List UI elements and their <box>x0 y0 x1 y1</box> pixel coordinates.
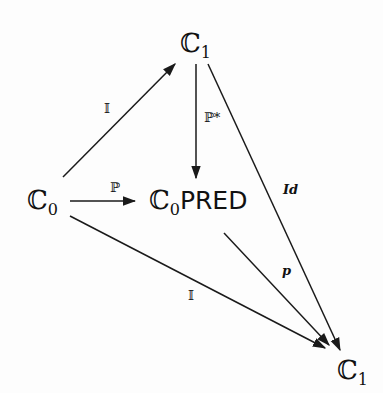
c1-bottom-subscript: 1 <box>358 370 368 389</box>
c0pred-subscript: 0 <box>170 200 180 219</box>
arrow-c0pred-to-c1-bottom <box>224 233 329 345</box>
commutative-diagram: ℂ1 ℂ0 ℂ0PRED ℂ1 𝕀 ℙ ℙ* Id p 𝕀 <box>0 0 383 393</box>
label-p-star: ℙ* <box>204 110 220 125</box>
arrow-c0-to-c1-top <box>63 64 175 177</box>
c1-bottom-base: ℂ <box>337 355 358 385</box>
node-c0pred: ℂ0PRED <box>149 185 247 215</box>
c1-top-subscript: 1 <box>201 43 211 62</box>
c0pred-base: ℂ <box>149 185 170 215</box>
c0-left-base: ℂ <box>27 185 48 215</box>
c0-left-subscript: 0 <box>48 200 58 219</box>
node-c1-bottom: ℂ1 <box>337 355 368 385</box>
label-i-lower: 𝕀 <box>188 288 194 303</box>
label-i-upper: 𝕀 <box>104 101 110 116</box>
node-c1-top: ℂ1 <box>180 28 211 58</box>
label-p-small: p <box>282 263 291 278</box>
label-id: Id <box>283 182 298 197</box>
node-c0-left: ℂ0 <box>27 185 58 215</box>
label-p-bold: ℙ <box>110 180 120 195</box>
c1-top-base: ℂ <box>180 28 201 58</box>
c0pred-suffix: PRED <box>180 186 248 215</box>
